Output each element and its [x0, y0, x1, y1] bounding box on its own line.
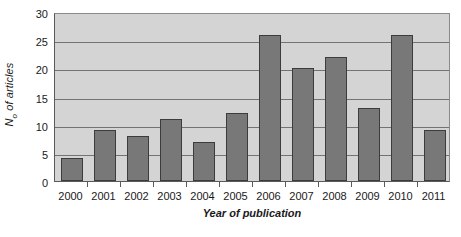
y-axis-tick-label: 10	[20, 121, 48, 132]
y-axis-title-text: No of articles	[3, 63, 18, 127]
x-axis-tick-mark	[384, 182, 385, 187]
bar	[424, 130, 446, 181]
x-axis-tick-label: 2009	[355, 189, 379, 203]
x-axis-tick-mark	[87, 182, 88, 187]
y-axis-tick-label: 25	[20, 37, 48, 48]
bar	[391, 35, 413, 181]
x-axis-tick-marks	[54, 182, 450, 187]
x-axis-tick-label: 2005	[223, 189, 247, 203]
y-axis-tick-label: 5	[20, 149, 48, 160]
plot-area	[54, 13, 450, 182]
y-axis-title-rest: of articles	[3, 63, 15, 114]
bar	[259, 35, 281, 181]
bar	[325, 57, 347, 181]
x-axis-tick-label: 2003	[157, 189, 181, 203]
y-axis-tick-labels: 051015202530	[20, 7, 48, 189]
x-axis-tick-labels: 2000200120022003200420052006200720082009…	[54, 189, 450, 205]
y-axis-tick-label: 20	[20, 65, 48, 76]
x-axis-tick-label: 2006	[256, 189, 280, 203]
bar	[193, 142, 215, 181]
x-axis-tick-label: 2004	[190, 189, 214, 203]
x-axis-tick-mark	[417, 182, 418, 187]
x-axis-tick-label: 2011	[422, 189, 446, 203]
bar	[127, 136, 149, 181]
bar	[358, 108, 380, 181]
x-axis-tick-mark	[318, 182, 319, 187]
x-axis-tick-label: 2001	[91, 189, 115, 203]
bar	[61, 158, 83, 181]
bar-chart-figure: No of articles 051015202530 200020012002…	[0, 0, 461, 237]
bars-layer	[55, 14, 449, 181]
x-axis-tick-label: 2000	[58, 189, 82, 203]
bar	[160, 119, 182, 181]
bar	[94, 130, 116, 181]
x-axis-tick-label: 2007	[289, 189, 313, 203]
x-axis-tick-mark	[153, 182, 154, 187]
x-axis-tick-mark	[252, 182, 253, 187]
x-axis-tick-mark	[285, 182, 286, 187]
x-axis-tick-label: 2002	[124, 189, 148, 203]
x-axis-tick-mark	[351, 182, 352, 187]
y-axis-title-subscript: o	[10, 114, 19, 119]
x-axis-title: Year of publication	[54, 207, 450, 219]
x-axis-tick-label: 2008	[322, 189, 346, 203]
y-axis-tick-label: 15	[20, 93, 48, 104]
y-axis-title-main: N	[3, 119, 15, 127]
bar	[226, 113, 248, 181]
bar	[292, 68, 314, 181]
y-axis-tick-label: 30	[20, 9, 48, 20]
x-axis-tick-mark	[186, 182, 187, 187]
y-axis-tick-label: 0	[20, 178, 48, 189]
x-axis-tick-label: 2010	[388, 189, 412, 203]
x-axis-tick-mark	[120, 182, 121, 187]
x-axis-tick-mark	[219, 182, 220, 187]
y-axis-title: No of articles	[0, 0, 22, 190]
